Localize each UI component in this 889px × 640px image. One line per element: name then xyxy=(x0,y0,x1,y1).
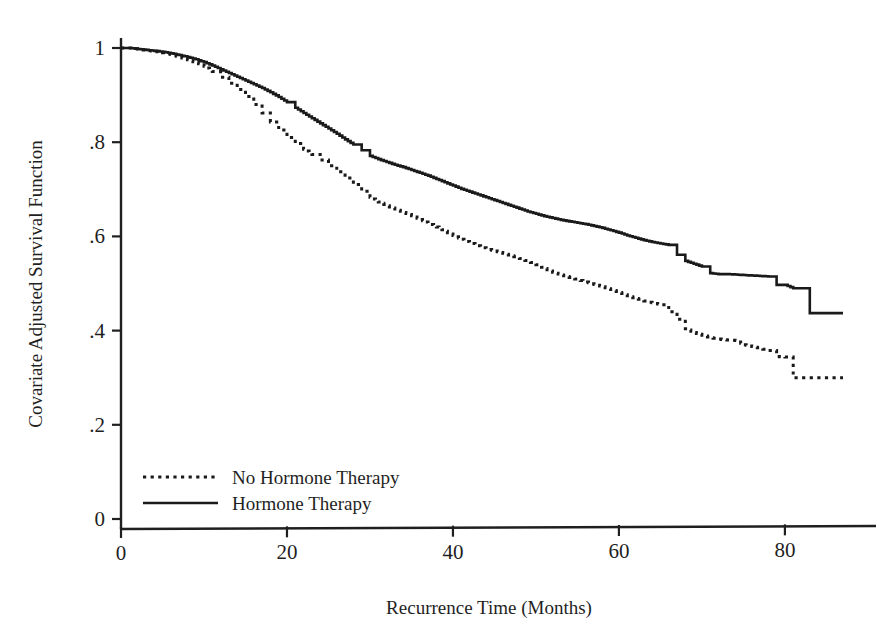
x-axis-tick-label: 40 xyxy=(442,540,463,564)
y-axis-title: Covariate Adjusted Survival Function xyxy=(25,140,46,428)
survival-chart-figure: 0.2.4.6.81 020406080 No Hormone Therapy … xyxy=(0,0,889,640)
survival-chart-svg: 0.2.4.6.81 020406080 No Hormone Therapy … xyxy=(0,0,889,640)
x-axis-tick-label: 20 xyxy=(276,540,297,564)
x-axis-title: Recurrence Time (Months) xyxy=(386,597,592,619)
legend-label-hormone-therapy: Hormone Therapy xyxy=(232,493,372,514)
y-axis-tick-label: 1 xyxy=(95,36,106,60)
x-axis-tick-label: 60 xyxy=(608,539,629,563)
x-axis-tick-label: 0 xyxy=(116,541,127,565)
y-axis-tick-label: .4 xyxy=(89,319,105,343)
y-axis-tick-label: .2 xyxy=(89,413,105,437)
y-axis-tick-label: .8 xyxy=(89,130,105,154)
y-axis-tick-label: 0 xyxy=(95,507,106,531)
x-axis-tick-label: 80 xyxy=(774,538,795,562)
legend-label-no-hormone-therapy: No Hormone Therapy xyxy=(232,467,400,488)
y-axis-tick-label: .6 xyxy=(89,224,105,248)
